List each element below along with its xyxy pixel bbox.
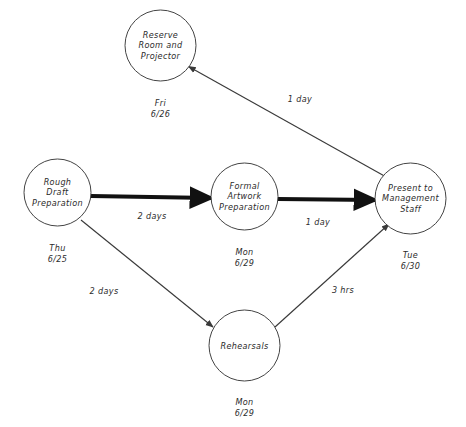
- edge-rough-to-formal[interactable]: [91, 196, 211, 198]
- node-circle-formal-artwork[interactable]: [211, 163, 278, 230]
- edge-rough-to-rehearsals-duration-label: 2 days: [90, 286, 119, 297]
- node-date-reserve-room: Fri 6/26: [151, 98, 171, 119]
- node-date-rough-draft: Thu 6/25: [48, 243, 68, 264]
- edge-rough-to-formal-duration-label: 2 days: [138, 211, 167, 222]
- node-date-rehearsals: Mon 6/29: [235, 397, 255, 418]
- diagram-vector-layer: [0, 0, 466, 427]
- node-date-formal-artwork: Mon 6/29: [235, 247, 255, 268]
- edge-formal-to-present-duration-label: 1 day: [306, 217, 330, 228]
- node-circle-rehearsals[interactable]: [209, 310, 280, 381]
- network-diagram-canvas: Reserve Room and ProjectorFri 6/26Rough …: [0, 0, 466, 427]
- edge-present-to-reserve-duration-label: 1 day: [288, 94, 312, 105]
- edge-rehearsals-to-present[interactable]: [275, 224, 389, 327]
- edge-formal-to-present[interactable]: [278, 199, 375, 200]
- node-circle-reserve-room[interactable]: [125, 10, 196, 81]
- node-date-present-management: Tue 6/30: [401, 250, 421, 271]
- edge-present-to-reserve[interactable]: [189, 67, 384, 176]
- edge-rehearsals-to-present-duration-label: 3 hrs: [332, 285, 354, 296]
- node-circle-rough-draft[interactable]: [24, 159, 91, 226]
- nodes-layer: [24, 10, 446, 381]
- node-circle-present-management[interactable]: [375, 163, 446, 234]
- edge-rough-to-rehearsals[interactable]: [81, 220, 213, 327]
